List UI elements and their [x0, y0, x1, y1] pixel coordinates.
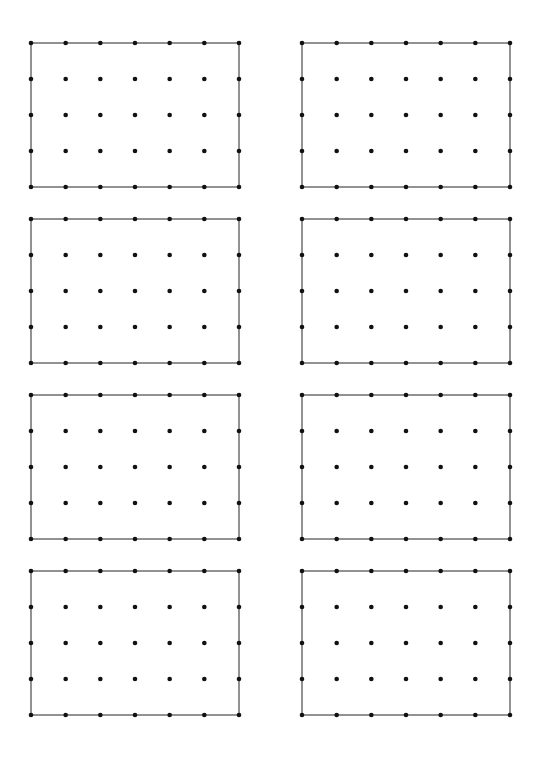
grid-dot: [237, 677, 242, 682]
dot-grid-graphic: [31, 571, 239, 715]
grid-dot: [63, 361, 68, 366]
grid-dot: [98, 253, 103, 258]
grid-dot: [133, 677, 138, 682]
grid-dot: [133, 113, 138, 118]
grid-dot: [369, 501, 374, 506]
grid-dot: [237, 253, 242, 258]
grid-dot: [404, 361, 409, 366]
grid-dot: [300, 149, 305, 154]
grid-dot: [133, 185, 138, 190]
grid-dot: [473, 361, 478, 366]
grid-dot: [63, 569, 68, 574]
grid-dot: [404, 465, 409, 470]
grid-dot: [167, 325, 172, 330]
grid-dot: [167, 641, 172, 646]
grid-dot: [202, 185, 207, 190]
grid-dot: [167, 149, 172, 154]
grid-dot: [29, 149, 34, 154]
grid-dot: [167, 361, 172, 366]
grid-dot: [237, 465, 242, 470]
grid-dot: [202, 677, 207, 682]
dot-grid-rectangle: [302, 395, 510, 539]
grid-dot: [369, 149, 374, 154]
grid-dot: [237, 217, 242, 222]
dot-grid-rectangle: [302, 219, 510, 363]
grid-dot: [369, 185, 374, 190]
grid-dot: [29, 501, 34, 506]
grid-dot: [404, 325, 409, 330]
grid-dot: [300, 465, 305, 470]
grid-dot: [98, 149, 103, 154]
grid-dot: [29, 713, 34, 718]
grid-dot: [63, 217, 68, 222]
grid-dot: [202, 217, 207, 222]
grid-dot: [473, 393, 478, 398]
grid-dot: [133, 641, 138, 646]
grid-dot: [334, 289, 339, 294]
grid-dot: [237, 77, 242, 82]
grid-dot: [300, 361, 305, 366]
grid-dot: [237, 361, 242, 366]
grid-dot: [300, 393, 305, 398]
grid-dot: [473, 77, 478, 82]
grid-dot: [473, 253, 478, 258]
grid-dot: [29, 253, 34, 258]
grid-dot: [438, 605, 443, 610]
grid-dot: [369, 641, 374, 646]
grid-dot: [237, 501, 242, 506]
grid-dot: [98, 217, 103, 222]
grid-dot: [473, 677, 478, 682]
grid-dot: [202, 393, 207, 398]
grid-dot: [438, 289, 443, 294]
dot-grid-graphic: [302, 571, 510, 715]
grid-dot: [369, 289, 374, 294]
grid-dot: [404, 41, 409, 46]
grid-dot: [508, 325, 513, 330]
grid-dot: [167, 677, 172, 682]
grid-dot: [98, 77, 103, 82]
grid-dot: [29, 325, 34, 330]
grid-dot: [237, 149, 242, 154]
grid-dot: [98, 289, 103, 294]
grid-dot: [29, 361, 34, 366]
grid-dot: [404, 641, 409, 646]
grid-dot: [404, 149, 409, 154]
grid-dot: [508, 677, 513, 682]
grid-dot: [98, 713, 103, 718]
grid-dot: [438, 149, 443, 154]
grid-dot: [63, 677, 68, 682]
grid-dot: [438, 537, 443, 542]
grid-dot: [133, 289, 138, 294]
grid-dot: [334, 149, 339, 154]
grid-dot: [508, 465, 513, 470]
grid-dot: [438, 569, 443, 574]
grid-dot: [98, 501, 103, 506]
grid-dot: [167, 501, 172, 506]
grid-dot: [369, 217, 374, 222]
grid-dot: [508, 393, 513, 398]
grid-dot: [508, 569, 513, 574]
grid-dot: [473, 185, 478, 190]
grid-dot: [237, 289, 242, 294]
grid-dot: [237, 537, 242, 542]
grid-dot: [98, 113, 103, 118]
grid-dot: [167, 713, 172, 718]
grid-dot: [237, 713, 242, 718]
grid-dot: [98, 569, 103, 574]
grid-dot: [473, 605, 478, 610]
grid-dot: [369, 113, 374, 118]
grid-dot: [98, 429, 103, 434]
dot-grid-rectangle: [31, 395, 239, 539]
grid-dot: [202, 289, 207, 294]
grid-dot: [438, 325, 443, 330]
grid-dot: [508, 113, 513, 118]
grid-dot: [369, 77, 374, 82]
grid-dot: [438, 185, 443, 190]
grid-dot: [29, 113, 34, 118]
grid-dot: [404, 217, 409, 222]
grid-dot: [202, 569, 207, 574]
grid-dot: [167, 217, 172, 222]
grid-dot: [202, 465, 207, 470]
grid-dot: [63, 501, 68, 506]
grid-dot: [133, 325, 138, 330]
